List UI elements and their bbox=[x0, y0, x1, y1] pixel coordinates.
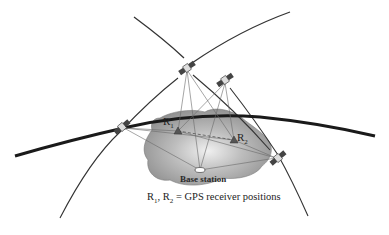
orbit-arc-top-left bbox=[134, 17, 184, 58]
satellite-icon bbox=[178, 60, 197, 76]
label-r2-sub: 2 bbox=[244, 138, 248, 146]
label-base-station: Base station bbox=[180, 174, 226, 184]
caption-rest: = GPS receiver positions bbox=[173, 191, 280, 202]
orbit-arc-top-right bbox=[192, 12, 290, 63]
caption-r2-base: R bbox=[163, 191, 170, 202]
caption-r1-base: R bbox=[147, 191, 154, 202]
label-r1-sub: 1 bbox=[170, 122, 174, 130]
satellite-icon bbox=[216, 72, 235, 88]
label-r1: R1 bbox=[163, 115, 174, 130]
label-r2: R2 bbox=[237, 131, 248, 146]
satellite-icon bbox=[269, 150, 287, 167]
base-station-icon bbox=[195, 168, 205, 173]
caption: R1, R2 = GPS receiver positions bbox=[147, 191, 281, 205]
